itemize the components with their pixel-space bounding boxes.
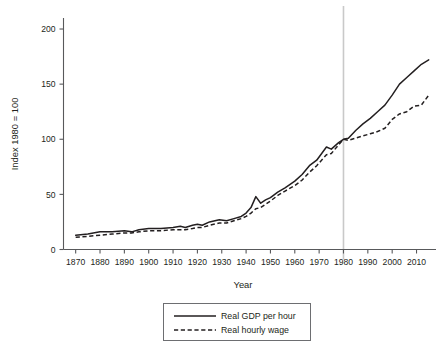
x-tick-label-1960: 1960 — [285, 257, 304, 267]
legend-label-real-hourly-wage: Real hourly wage — [221, 325, 289, 335]
x-tick-label-1930: 1930 — [212, 257, 231, 267]
y-tick-label-200: 200 — [41, 24, 56, 34]
chart-figure: 050100150200 187018801890190019101920193… — [0, 0, 442, 355]
y-tick-label-0: 0 — [51, 245, 56, 255]
y-tick-label-50: 50 — [46, 190, 56, 200]
x-tick-label-1880: 1880 — [90, 257, 109, 267]
x-tick-label-1980: 1980 — [334, 257, 353, 267]
x-tick-label-1900: 1900 — [139, 257, 158, 267]
x-tick-label-1950: 1950 — [261, 257, 280, 267]
chart-legend: Real GDP per hour Real hourly wage — [164, 304, 311, 341]
x-tick-label-2010: 2010 — [407, 257, 426, 267]
line-chart: 050100150200 187018801890190019101920193… — [0, 0, 442, 355]
y-axis-title: Index 1980 = 100 — [9, 98, 20, 171]
x-tick-label-1890: 1890 — [115, 257, 134, 267]
y-tick-label-100: 100 — [41, 134, 56, 144]
x-tick-label-1990: 1990 — [358, 257, 377, 267]
legend-label-real-gdp-per-hour: Real GDP per hour — [221, 311, 296, 321]
x-tick-label-2000: 2000 — [383, 257, 402, 267]
x-tick-label-1940: 1940 — [237, 257, 256, 267]
figure-background — [0, 0, 442, 355]
x-tick-label-1870: 1870 — [66, 257, 85, 267]
x-tick-label-1920: 1920 — [188, 257, 207, 267]
x-tick-label-1970: 1970 — [310, 257, 329, 267]
x-axis-title: Year — [234, 279, 253, 290]
x-tick-label-1910: 1910 — [163, 257, 182, 267]
y-tick-label-150: 150 — [41, 79, 56, 89]
